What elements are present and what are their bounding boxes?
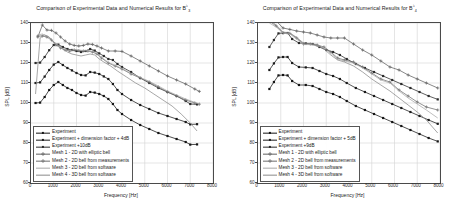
legend-marker-icon	[42, 139, 44, 141]
y-axis-ticks-right: 60708090100110120130140	[235, 22, 255, 182]
legend-item[interactable]: Mesh 3 - 2D bell from software	[36, 164, 129, 171]
data-point-marker	[103, 75, 105, 77]
data-point-marker	[80, 94, 82, 96]
x-axis-tick-label: 5000	[365, 183, 375, 188]
data-point-marker	[193, 87, 196, 90]
legend-marker-icon	[42, 131, 44, 133]
data-point-marker	[297, 84, 299, 86]
legend-left[interactable]: ExperimentExperiment + dimension factor …	[33, 126, 133, 182]
legend-item[interactable]: Experiment	[263, 129, 356, 136]
data-point-marker	[66, 87, 68, 89]
legend-marker-icon	[268, 139, 270, 141]
legend-item[interactable]: Mesh 2 - 2D bell from measurements	[36, 157, 129, 164]
data-point-marker	[308, 31, 311, 34]
chart-panel-left: Comparison of Experimental Data and Nume…	[0, 0, 227, 218]
data-point-marker	[322, 35, 325, 38]
series-line	[36, 45, 198, 105]
chart-title-left-sub: 3	[188, 9, 190, 13]
data-point-marker	[39, 81, 41, 83]
data-point-marker	[409, 111, 411, 113]
legend-item[interactable]: Mesh 3 - 2D bell from software	[263, 164, 356, 171]
x-axis-title-left: Frequency [Hz]	[30, 192, 212, 198]
x-axis-tick-label: 3000	[93, 183, 103, 188]
data-point-marker	[185, 121, 187, 123]
legend-item[interactable]: Experiment	[36, 129, 129, 136]
legend-item[interactable]: Mesh 2 - 2D bell from measurements	[263, 157, 356, 164]
data-point-marker	[382, 117, 384, 119]
data-point-marker	[318, 88, 320, 90]
data-point-marker	[44, 96, 46, 98]
data-point-marker	[196, 123, 198, 125]
data-point-marker	[139, 104, 141, 106]
data-point-marker	[120, 50, 123, 53]
legend-item[interactable]: Experiment +9dB	[263, 143, 356, 150]
series-5	[269, 23, 437, 118]
legend-right[interactable]: ExperimentExperiment + dimension factor …	[260, 126, 360, 182]
x-axis-tick-label: 2000	[297, 183, 307, 188]
series-line	[38, 34, 200, 104]
data-point-marker	[198, 90, 201, 93]
series-line	[269, 57, 437, 124]
legend-swatch	[36, 136, 50, 143]
x-axis-tick-label: 2000	[70, 183, 80, 188]
data-point-marker	[345, 100, 347, 102]
data-point-marker	[277, 32, 279, 34]
data-point-marker	[176, 138, 178, 140]
data-point-marker	[89, 71, 91, 73]
legend-label: Experiment +9dB	[279, 144, 315, 149]
data-point-marker	[89, 91, 91, 93]
data-point-marker	[363, 109, 365, 111]
legend-item[interactable]: Mesh 1 - 2D with elliptic bell	[36, 150, 129, 157]
data-point-marker	[39, 102, 41, 104]
data-point-marker	[185, 141, 187, 143]
data-point-marker	[272, 39, 274, 41]
chart-title-right-sup: ♭	[413, 4, 415, 8]
data-point-marker	[354, 87, 356, 89]
data-point-marker	[100, 46, 103, 49]
data-point-marker	[53, 64, 55, 66]
legend-item[interactable]: Experiment +10dB	[36, 143, 129, 150]
legend-label: Experiment + dimension factor + 5dB	[279, 137, 356, 142]
legend-swatch	[263, 165, 277, 172]
data-point-marker	[391, 103, 393, 105]
data-point-marker	[157, 112, 159, 114]
chart-title-right-sub: 4	[415, 9, 417, 13]
legend-item[interactable]: Mesh 4 - 3D bell from software	[36, 172, 129, 179]
data-point-marker	[80, 74, 82, 76]
legend-item[interactable]: Experiment + dimension factor + 5dB	[263, 136, 356, 143]
chart-panel-right: Comparison of Experimental Data and Nume…	[227, 0, 453, 218]
data-point-marker	[436, 108, 439, 111]
data-point-marker	[66, 67, 68, 69]
data-point-marker	[94, 50, 96, 52]
legend-marker-icon	[268, 159, 272, 163]
data-point-marker	[121, 93, 123, 95]
data-point-marker	[345, 82, 347, 84]
data-point-marker	[297, 66, 299, 68]
y-axis-tick-label: 100	[20, 100, 28, 105]
x-axis-tick-label: 4000	[342, 183, 352, 188]
data-point-marker	[272, 62, 274, 64]
legend-label: Experiment	[279, 130, 303, 135]
data-point-marker	[277, 56, 279, 58]
data-point-marker	[372, 95, 374, 97]
legend-label: Mesh 4 - 3D bell from software	[279, 173, 343, 178]
y-axis-tick-label: 120	[247, 60, 255, 65]
series-3	[267, 23, 439, 90]
data-point-marker	[107, 58, 109, 60]
series-line	[269, 23, 437, 133]
legend-swatch	[36, 157, 50, 164]
data-point-marker	[116, 109, 118, 111]
data-point-marker	[130, 54, 133, 57]
data-point-marker	[291, 38, 293, 40]
legend-item[interactable]: Mesh 1 - 2D with elliptic bell	[263, 150, 356, 157]
legend-label: Experiment + dimension factor + 4dB	[52, 137, 129, 142]
data-point-marker	[277, 74, 279, 76]
data-point-marker	[85, 74, 87, 76]
legend-item[interactable]: Mesh 4 - 3D bell from software	[263, 172, 356, 179]
legend-item[interactable]: Experiment + dimension factor + 4dB	[36, 136, 129, 143]
x-axis-tick-label: 0	[255, 183, 258, 188]
data-point-marker	[103, 55, 105, 57]
y-axis-title-left: SPL [dB]	[4, 77, 10, 117]
legend-swatch	[263, 150, 277, 157]
data-point-marker	[73, 44, 76, 47]
